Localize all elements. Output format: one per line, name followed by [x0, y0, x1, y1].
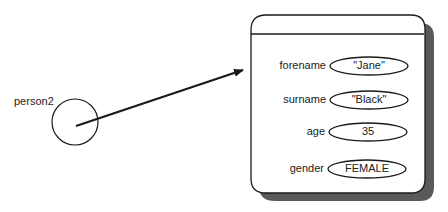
field-value-age: 35 — [329, 125, 407, 138]
field-value-forename: "Jane" — [330, 59, 408, 72]
field-name-forename: forename — [246, 59, 326, 72]
field-name-surname: surname — [246, 93, 326, 106]
field-value-surname: "Black" — [330, 93, 408, 106]
reference-arrow — [76, 70, 243, 126]
field-name-age: age — [245, 125, 325, 138]
variable-name-label: person2 — [14, 95, 54, 108]
field-value-gender: FEMALE — [328, 162, 406, 175]
diagram-canvas — [0, 0, 448, 212]
field-name-gender: gender — [244, 162, 324, 175]
